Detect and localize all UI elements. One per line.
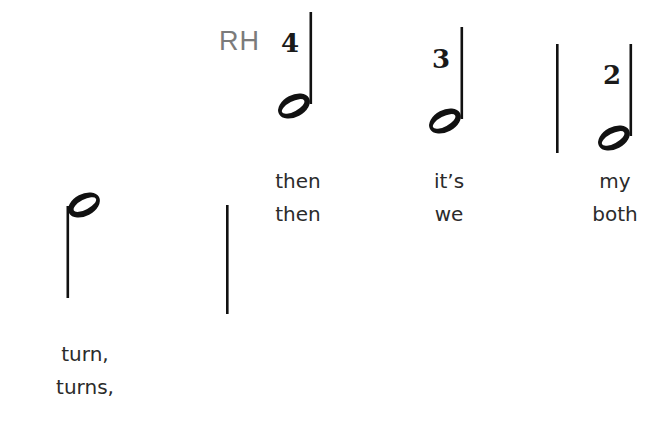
- stem-up: [310, 12, 313, 104]
- finger-number-4: 4: [281, 30, 299, 56]
- finger-number-3: 3: [432, 46, 450, 72]
- lyric-verse-2: we: [404, 198, 494, 231]
- lyric-verse-2: both: [570, 198, 660, 231]
- lyric-verse-2: then: [253, 198, 343, 231]
- lyric-verse-1: it’s: [404, 165, 494, 198]
- stem-up: [630, 44, 633, 136]
- lyrics-note-1: turn, turns,: [40, 338, 130, 404]
- half-note-1: [64, 187, 104, 298]
- lyrics-note-4: my both: [570, 165, 660, 231]
- lyric-verse-2: turns,: [40, 371, 130, 404]
- hand-label-rh: RH: [219, 28, 260, 55]
- barline-2: [556, 44, 559, 153]
- stem-down: [67, 206, 70, 298]
- barline-1: [226, 205, 229, 314]
- lyric-verse-1: turn,: [40, 338, 130, 371]
- lyric-verse-1: then: [253, 165, 343, 198]
- lyrics-note-3: it’s we: [404, 165, 494, 231]
- music-notation-excerpt: RH 4 3 2 turn, turns, then then it’s we …: [0, 0, 667, 436]
- lyrics-note-2: then then: [253, 165, 343, 231]
- finger-number-2: 2: [603, 62, 621, 88]
- lyric-verse-1: my: [570, 165, 660, 198]
- stem-up: [461, 27, 464, 119]
